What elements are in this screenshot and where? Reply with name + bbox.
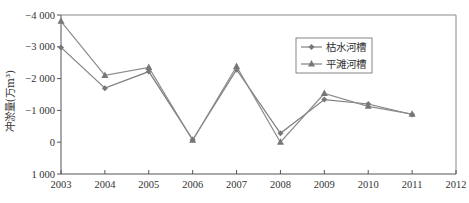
- x-tick-label: 2008: [270, 179, 291, 190]
- sediment-change-chart: −4 000−3 000−2 000−1 00001 000 200320042…: [0, 0, 469, 203]
- triangle-marker-icon: [58, 17, 65, 24]
- series-lines: [58, 17, 416, 144]
- y-tick-label: −2 000: [25, 73, 55, 84]
- x-tick-label: 2004: [94, 179, 116, 190]
- triangle-marker-icon: [321, 90, 328, 97]
- triangle-marker-icon: [145, 63, 152, 70]
- y-tick-label: −1 000: [25, 105, 55, 116]
- x-tick-label: 2011: [402, 179, 423, 190]
- x-tick-label: 2005: [138, 179, 159, 190]
- x-axis: 2003200420052006200720082009201020112012: [51, 170, 467, 190]
- x-tick-label: 2012: [446, 179, 467, 190]
- series-bankfull-channel: [58, 17, 416, 144]
- y-axis-title: 冲淤量(万m³): [4, 70, 16, 132]
- y-axis: −4 000−3 000−2 000−1 00001 000: [25, 10, 61, 180]
- x-tick-label: 2010: [358, 179, 379, 190]
- x-tick-label: 2006: [182, 179, 203, 190]
- legend-label: 平滩河槽: [326, 58, 367, 70]
- x-tick-label: 2007: [226, 179, 247, 190]
- legend: 枯水河槽平滩河槽: [296, 38, 372, 73]
- y-tick-label: 0: [50, 137, 55, 148]
- y-tick-label: 1 000: [31, 169, 55, 180]
- x-tick-label: 2003: [51, 179, 72, 190]
- legend-label: 枯水河槽: [326, 41, 367, 53]
- plot-frame: [61, 15, 456, 174]
- y-tick-label: −3 000: [25, 41, 55, 52]
- triangle-marker-icon: [233, 63, 240, 70]
- x-tick-label: 2009: [314, 179, 335, 190]
- y-tick-label: −4 000: [25, 10, 55, 21]
